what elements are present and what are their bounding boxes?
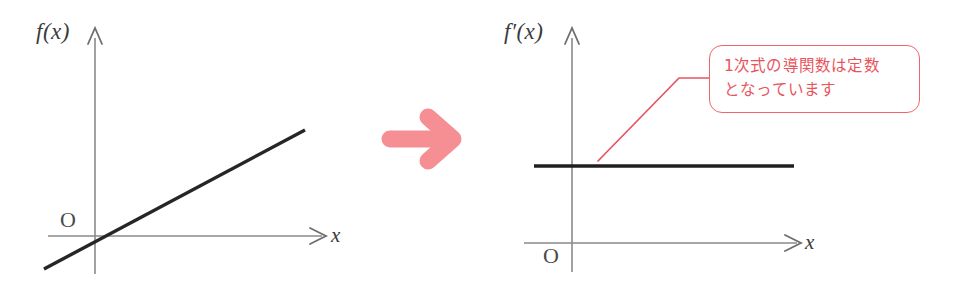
callout-leader-line: [598, 78, 711, 161]
left-x-axis-label: x: [331, 225, 340, 246]
left-origin-label: O: [60, 209, 76, 231]
derivative-diagram: f(x) x O f′(x) x O 1次式の導関数は定数 となっています: [0, 0, 958, 290]
left-y-axis-label: f(x): [36, 20, 70, 43]
annotation-callout-text: 1次式の導関数は定数 となっています: [724, 54, 914, 102]
transition-arrow-icon: [390, 117, 453, 161]
right-y-axis-label: f′(x): [504, 20, 543, 43]
right-origin-label: O: [543, 245, 559, 267]
left-function-line: [44, 130, 305, 269]
right-x-axis-label: x: [805, 232, 814, 253]
left-graph-axes: [48, 28, 326, 274]
